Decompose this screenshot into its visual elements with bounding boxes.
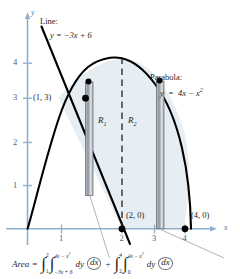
leader-line-dx1: [90, 195, 110, 258]
x-axis-arrow: [210, 226, 217, 231]
region-r2-subscript: 2: [134, 121, 137, 127]
outer-lower-1: 1: [46, 269, 49, 275]
x-axis-label: x: [224, 224, 228, 232]
circled-dx-2: dx: [158, 257, 173, 269]
y-tick-label-3: 3: [13, 93, 17, 102]
point-1-3: [82, 95, 89, 102]
point-4-0: [182, 225, 189, 232]
integral-term-1: ∫ 2 1 ∫ 4x − x2 −3x + 6 dy dx: [41, 252, 101, 275]
area-formula: Area = ∫ 2 1 ∫ 4x − x2 −3x + 6 dy dx +: [12, 252, 240, 278]
differential-dy-1: dy: [75, 259, 84, 269]
parabola-eq-exponent: 2: [200, 87, 203, 93]
y-tick-label-1: 1: [13, 181, 17, 190]
point-label-4-0: (4, 0): [191, 211, 209, 220]
x-tick-label-4: 4: [183, 234, 187, 243]
inner-limits-2: 4x − x2 0: [128, 252, 144, 275]
region-label-r2: R2: [128, 116, 137, 127]
line-eq-rhs: = −3x + 6: [56, 30, 92, 40]
parabola-eq-rhs: 4x − x: [178, 88, 200, 98]
parabola-label-equation: y = 4x − x2: [160, 87, 203, 97]
inner-upper-1: 4x − x2: [54, 252, 72, 260]
point-strip-top-r1: [86, 79, 92, 85]
parabola-label-title: Parabola:: [150, 73, 182, 82]
y-tick-label-2: 2: [13, 138, 17, 147]
line-label-equation: y = −3x + 6: [50, 31, 92, 40]
outer-limits-2: 4 2: [119, 253, 122, 275]
region-label-r1: R1: [98, 116, 107, 127]
point-label-2-0: (2, 0): [126, 211, 144, 220]
inner-lower-2: 0: [128, 270, 144, 276]
y-tick-label-4: 4: [13, 58, 17, 67]
outer-lower-2: 2: [119, 269, 122, 275]
point-2-0: [119, 225, 126, 232]
line-label-title: Line:: [40, 17, 58, 26]
differential-dy-2: dy: [147, 259, 156, 269]
region-r1-subscript: 1: [104, 121, 107, 127]
circled-dx-1: dx: [87, 257, 102, 269]
inner-limits-1: 4x − x2 −3x + 6: [54, 252, 72, 275]
x-tick-label-3: 3: [152, 234, 156, 243]
outer-limits-1: 2 1: [46, 253, 49, 275]
equals-sign: =: [32, 259, 37, 269]
outer-upper-1: 2: [46, 253, 49, 259]
x-tick-label-2: 2: [120, 234, 124, 243]
shaded-region: [59, 59, 189, 229]
inner-upper-2: 4x − x2: [128, 252, 144, 260]
inner-lower-1: −3x + 6: [54, 270, 72, 276]
y-axis-label: y: [31, 9, 35, 17]
point-label-1-3: (1, 3): [33, 93, 51, 102]
line-eq-lhs: y: [50, 30, 54, 40]
figure-canvas: y x 4 3 2 1 1 2 3 4 Line: y = −3x + 6 Pa…: [0, 0, 240, 279]
area-word: Area: [12, 259, 29, 269]
strip-r2: [157, 81, 165, 229]
integral-term-2: ∫ 4 2 ∫ 4x − x2 0 dy dx: [115, 252, 173, 275]
x-tick-label-1: 1: [59, 234, 63, 243]
parabola-eq-lhs: y: [160, 88, 164, 98]
y-axis-arrow: [25, 12, 30, 19]
plus-sign: +: [105, 259, 110, 269]
outer-upper-2: 4: [119, 253, 122, 259]
